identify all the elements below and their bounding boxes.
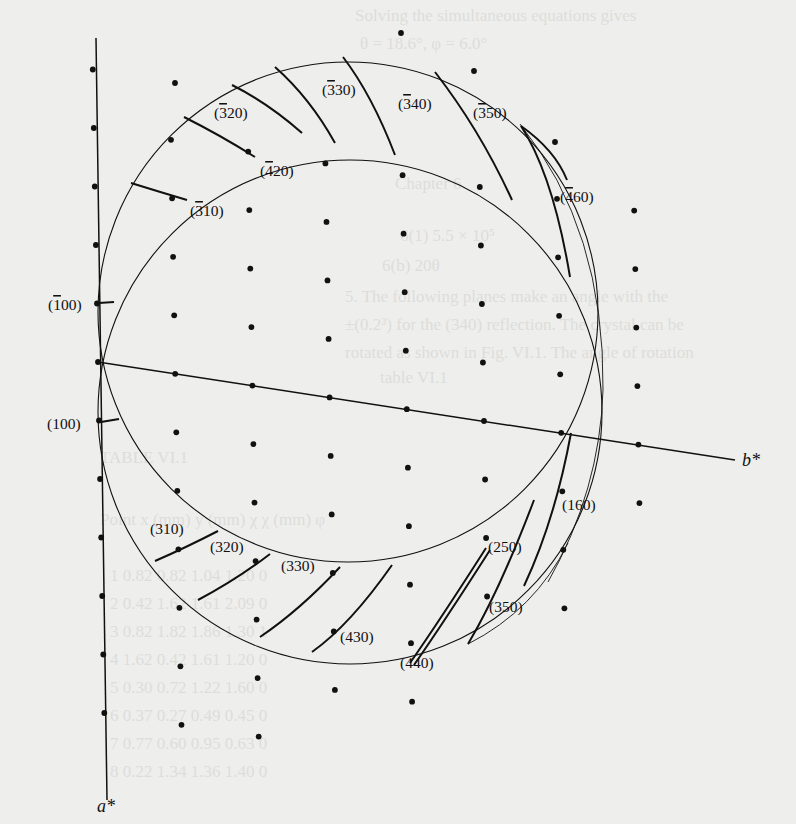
lattice-point <box>633 325 639 331</box>
sphere-2-circle <box>98 160 602 664</box>
lattice-point <box>92 184 98 190</box>
lattice-point <box>255 675 261 681</box>
lattice-point <box>246 207 252 213</box>
lattice-point <box>562 605 568 611</box>
lattice-point <box>552 139 558 145</box>
lattice-point <box>93 242 99 248</box>
lattice-point <box>323 161 329 167</box>
lattice-point <box>247 266 253 272</box>
lattice-point <box>97 476 103 482</box>
lattice-point <box>404 406 410 412</box>
reflection-labels: (330)(340)(350)(320)(420)(460)(310)(100)… <box>47 81 596 672</box>
lattice-point <box>324 219 330 225</box>
lattice-point <box>329 512 335 518</box>
lattice-point <box>477 184 483 190</box>
lattice-point <box>98 535 104 541</box>
lattice-point <box>402 289 408 295</box>
sphere-1-circle <box>98 62 598 562</box>
lattice-point <box>557 371 563 377</box>
lattice-point <box>406 523 412 529</box>
lattice-point <box>177 605 183 611</box>
reciprocal-lattice-diagram: (330)(340)(350)(320)(420)(460)(310)(100)… <box>0 0 796 824</box>
reflection-label: (320) <box>210 538 244 556</box>
lattice-point <box>331 629 337 635</box>
reflection-label: (160) <box>562 496 596 514</box>
lattice-point <box>398 30 404 36</box>
lattice-point <box>99 593 105 599</box>
lattice-point <box>326 336 332 342</box>
reflection-label: (310) <box>190 202 224 220</box>
lattice-point <box>479 301 485 307</box>
reflection-label: (350) <box>489 598 523 616</box>
reflection-label: (420) <box>260 162 294 180</box>
trace-t-550n <box>435 72 512 200</box>
trace-t-530n <box>275 67 335 143</box>
ewald-sphere-circles <box>98 62 603 664</box>
lattice-point <box>251 441 257 447</box>
lattice-point <box>400 172 406 178</box>
lattice-point <box>325 278 331 284</box>
lattice-point <box>90 67 96 73</box>
lattice-point <box>101 710 107 716</box>
lattice-point <box>173 429 179 435</box>
lattice-point <box>327 395 333 401</box>
trace-t-350 <box>468 500 534 644</box>
lattice-point <box>172 371 178 377</box>
lattice-point <box>96 418 102 424</box>
reflection-label: (100) <box>48 296 82 314</box>
lattice-point <box>632 266 638 272</box>
a_star-label: a* <box>97 796 115 816</box>
reflection-label: (250) <box>488 538 522 556</box>
lattice-point <box>480 360 486 366</box>
reflection-label: (330) <box>322 81 356 99</box>
reflection-label: (350) <box>473 104 507 122</box>
lattice-point <box>482 477 488 483</box>
trace-t-420n <box>184 117 255 157</box>
trace-t-100n <box>99 302 114 303</box>
lattice-point <box>560 547 566 553</box>
lattice-point <box>403 348 409 354</box>
reflection-label: (320) <box>214 104 248 122</box>
reflection-label: (100) <box>47 415 81 433</box>
lattice-point <box>478 243 484 249</box>
lattice-point <box>405 465 411 471</box>
lattice-point <box>637 500 643 506</box>
lattice-point <box>635 383 641 389</box>
lattice-point <box>328 453 334 459</box>
axis-labels: a*b* <box>97 450 760 816</box>
trace-t-440b <box>414 550 490 665</box>
lattice-point <box>94 301 100 307</box>
reflection-label: (440) <box>400 654 434 672</box>
trace-t-540n <box>343 57 395 155</box>
reflection-label: (340) <box>398 95 432 113</box>
lattice-point <box>250 383 256 389</box>
lattice-point <box>556 313 562 319</box>
diagram-page: Solving the simultaneous equations gives… <box>0 0 796 824</box>
trace-t-440a <box>410 548 486 663</box>
lattice-point <box>249 324 255 330</box>
trace-t-100 <box>101 419 119 422</box>
lattice-point <box>471 68 477 74</box>
lattice-point <box>330 570 336 576</box>
lattice-point <box>401 231 407 237</box>
lattice-point <box>245 149 251 155</box>
reflection-label: (460) <box>560 188 594 206</box>
lattice-point <box>409 699 415 705</box>
lattice-point <box>252 500 258 506</box>
lattice-point <box>254 617 260 623</box>
lattice-point <box>172 80 178 86</box>
arc-lower-right <box>468 543 568 644</box>
lattice-point <box>636 442 642 448</box>
lattice-point <box>174 488 180 494</box>
lattice-point <box>168 137 174 143</box>
lattice-point <box>169 195 175 201</box>
lattice-point <box>170 254 176 260</box>
reflection-label: (430) <box>340 628 374 646</box>
lattice-point <box>559 488 565 494</box>
lattice-point <box>171 312 177 318</box>
reflection-label: (310) <box>150 520 184 538</box>
trace-t-320 <box>198 554 270 600</box>
lattice-point <box>253 558 259 564</box>
lattice-point <box>555 254 561 260</box>
lattice-point <box>631 208 637 214</box>
